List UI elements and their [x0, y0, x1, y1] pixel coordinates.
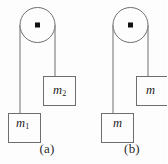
mass-label-b-upper: m: [146, 84, 155, 96]
mass-label-b-lower: m: [113, 117, 122, 129]
mass-label-m1-subscript: 1: [25, 122, 29, 131]
mass-label-m1: m1: [16, 117, 29, 133]
diagram-canvas: [0, 0, 167, 164]
panel-caption-a: (a): [27, 142, 67, 156]
pulley-axle-dot-b: [128, 23, 133, 28]
physics-figure: m1 m2 m m (a) (b): [0, 0, 167, 164]
mass-label-m2-base: m: [53, 83, 62, 97]
panel-caption-b: (b): [112, 142, 152, 156]
mass-label-m2: m2: [53, 84, 66, 100]
panel-b-group: [102, 8, 168, 143]
mass-label-m1-base: m: [16, 116, 25, 130]
pulley-axle-dot-a: [35, 23, 40, 28]
mass-label-b-lower-base: m: [113, 116, 122, 130]
mass-label-m2-subscript: 2: [62, 89, 66, 98]
mass-label-b-upper-base: m: [146, 83, 155, 97]
